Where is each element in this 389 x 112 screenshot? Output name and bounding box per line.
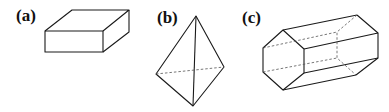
box-shape bbox=[45, 10, 129, 52]
tetrahedron-shape bbox=[156, 16, 224, 106]
figure-canvas bbox=[0, 0, 389, 112]
hexagonal-prism-shape bbox=[263, 15, 378, 90]
